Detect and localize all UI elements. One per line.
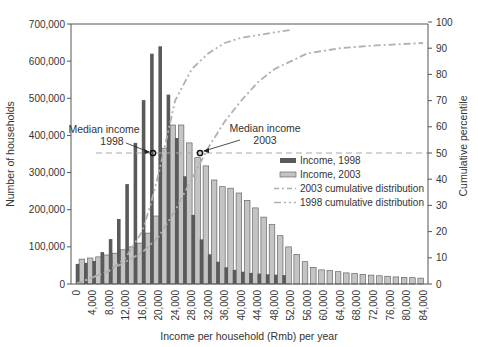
annotations-layer: Median income1998Median income2003 (68, 122, 300, 156)
bar-2003 (145, 233, 151, 284)
bar-2003 (327, 271, 333, 284)
bar-2003 (269, 225, 275, 284)
bar-1998 (183, 176, 187, 284)
income-distribution-chart: 0100,000200,000300,000400,000500,000600,… (0, 0, 478, 347)
axes-layer: 0100,000200,000300,000400,000500,000600,… (4, 17, 469, 343)
bar-2003 (253, 208, 259, 284)
y2-tick-label: 50 (436, 148, 448, 159)
x-tick-label: 84,000 (418, 290, 429, 321)
bar-2003 (120, 250, 126, 284)
bar-1998 (241, 272, 245, 284)
bar-2003 (286, 247, 292, 284)
bar-2003 (203, 166, 209, 284)
bar-2003 (162, 148, 168, 284)
legend-swatch-1998-bar (280, 158, 296, 163)
bar-2003 (244, 200, 250, 284)
x-axis-title: Income per household (Rmb) per year (160, 330, 338, 342)
x-tick-label: 4,000 (87, 290, 98, 315)
bar-2003 (360, 274, 366, 284)
bar-1998 (125, 184, 129, 284)
x-tick-label: 40,000 (236, 290, 247, 321)
bar-1998 (117, 219, 121, 284)
bar-2003 (261, 217, 267, 284)
y-tick-label: 200,000 (29, 204, 66, 215)
bar-2003 (311, 267, 317, 284)
bar-1998 (200, 239, 204, 284)
bar-1998 (249, 273, 253, 284)
y-tick-label: 500,000 (29, 93, 66, 104)
y-tick-label: 0 (59, 279, 65, 290)
bar-2003 (178, 125, 184, 284)
y2-tick-label: 80 (436, 69, 448, 80)
y-tick-label: 300,000 (29, 167, 66, 178)
bar-2003 (104, 255, 110, 284)
bar-1998 (76, 264, 80, 284)
x-tick-label: 72,000 (368, 290, 379, 321)
bar-1998 (208, 254, 212, 284)
bar-1998 (150, 54, 154, 284)
bar-2003 (154, 216, 160, 284)
bar-1998 (101, 252, 105, 284)
bar-2003 (418, 278, 424, 284)
chart-root: 0100,000200,000300,000400,000500,000600,… (0, 0, 478, 347)
bar-2003 (170, 125, 176, 284)
legend-label: Income, 1998 (300, 155, 361, 166)
x-tick-label: 16,000 (137, 290, 148, 321)
x-tick-label: 52,000 (285, 290, 296, 321)
legend-label: 1998 cumulative distribution (300, 197, 424, 208)
x-tick-label: 76,000 (385, 290, 396, 321)
bar-1998 (142, 100, 146, 284)
bar-1998 (92, 261, 96, 284)
legend-swatch-2003-bar (280, 172, 296, 177)
median-1998-label-line2: 1998 (100, 135, 124, 147)
median-2003-label-line2: 2003 (253, 134, 277, 146)
y2-tick-label: 60 (436, 121, 448, 132)
x-tick-label: 80,000 (401, 290, 412, 321)
bar-2003 (137, 243, 143, 284)
bar-2003 (87, 258, 93, 284)
x-tick-label: 0 (71, 290, 82, 296)
bar-1998 (266, 274, 270, 284)
bar-1998 (282, 275, 286, 284)
bar-2003 (277, 236, 283, 284)
bar-2003 (302, 262, 308, 284)
bar-1998 (109, 239, 113, 284)
x-tick-label: 20,000 (153, 290, 164, 321)
bar-2003 (393, 277, 399, 284)
bar-1998 (134, 143, 138, 284)
bar-2003 (211, 180, 217, 284)
y2-tick-label: 90 (436, 43, 448, 54)
bar-2003 (79, 259, 85, 284)
bar-1998 (274, 275, 278, 284)
bar-2003 (220, 187, 226, 284)
legend-label: 2003 cumulative distribution (300, 183, 424, 194)
bar-2003 (344, 273, 350, 284)
y2-axis-title: Cumulative percentile (457, 95, 469, 196)
y2-tick-label: 10 (436, 252, 448, 263)
x-tick-label: 48,000 (269, 290, 280, 321)
median-1998-label-line1: Median income (68, 123, 139, 135)
bar-1998 (191, 215, 195, 284)
x-tick-label: 60,000 (318, 290, 329, 321)
bar-2003 (368, 275, 374, 284)
bars-layer (76, 46, 424, 284)
bar-2003 (96, 257, 102, 284)
x-tick-label: 28,000 (186, 290, 197, 321)
bar-2003 (294, 254, 300, 284)
x-tick-label: 12,000 (120, 290, 131, 321)
y2-tick-label: 70 (436, 95, 448, 106)
y-tick-label: 700,000 (29, 19, 66, 30)
bar-1998 (224, 267, 228, 284)
x-tick-label: 32,000 (203, 290, 214, 321)
bar-1998 (216, 262, 220, 284)
x-tick-label: 56,000 (302, 290, 313, 321)
bar-2003 (187, 143, 193, 284)
bar-2003 (410, 278, 416, 284)
bar-1998 (167, 95, 171, 284)
bar-2003 (335, 272, 341, 284)
y-tick-label: 100,000 (29, 241, 66, 252)
y2-tick-label: 30 (436, 200, 448, 211)
y2-tick-label: 40 (436, 174, 448, 185)
legend: Income, 1998Income, 20032003 cumulative … (274, 155, 424, 208)
bar-2003 (319, 270, 325, 284)
